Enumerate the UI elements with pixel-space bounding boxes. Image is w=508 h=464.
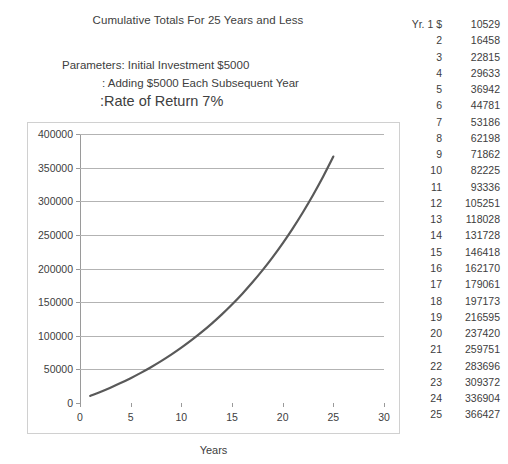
chart-frame: 0500001000001500002000002500003000003500… [27,122,400,434]
table-cell-total: 29633 [444,67,500,79]
table-cell-year: 12 [400,197,444,209]
table-cell-total: 197173 [444,295,500,307]
table-cell-total: 22815 [444,51,500,63]
y-axis-tick-label: 0 [67,397,73,409]
table-cell-year: 15 [400,246,444,258]
table-row: 753186 [400,116,504,132]
table-row: 1193336 [400,181,504,197]
table-row: 20237420 [400,327,504,343]
table-row: 536942 [400,83,504,99]
parameter-line-rate-of-return: :Rate of Return 7% [100,93,223,109]
table-cell-total: 179061 [444,278,500,290]
table-cell-year: 7 [400,116,444,128]
table-cell-year: 18 [400,295,444,307]
table-row: 21259751 [400,343,504,359]
table-row: 22283696 [400,360,504,376]
table-row: 13118028 [400,213,504,229]
table-cell-year: 4 [400,67,444,79]
x-axis-tick-label: 0 [77,411,83,423]
table-row: 19216595 [400,311,504,327]
table-cell-total: 366427 [444,408,500,420]
table-cell-total: 71862 [444,148,500,160]
x-axis-tick-label: 15 [226,411,238,423]
table-cell-year: 20 [400,327,444,339]
parameter-line-initial-investment: Parameters: Initial Investment $5000 [62,59,249,71]
table-cell-total: 10529 [444,18,500,30]
table-cell-year: 6 [400,99,444,111]
x-axis-tick-label: 10 [175,411,187,423]
table-cell-total: 309372 [444,376,500,388]
table-row: 16162170 [400,262,504,278]
table-row: 15146418 [400,246,504,262]
parameter-line-annual-addition: : Adding $5000 Each Subsequent Year [102,77,299,89]
table-row: 971862 [400,148,504,164]
table-cell-total: 146418 [444,246,500,258]
header-text-block: Cumulative Totals For 25 Years and Less … [0,0,396,118]
table-cell-year: 21 [400,343,444,355]
table-cell-total: 216595 [444,311,500,323]
table-cell-total: 336904 [444,392,500,404]
table-row: 12105251 [400,197,504,213]
y-axis-tick-label: 150000 [38,296,73,308]
table-cell-year: 9 [400,148,444,160]
table-row: 322815 [400,51,504,67]
x-axis-tick-label: 20 [277,411,289,423]
table-cell-total: 259751 [444,343,500,355]
table-cell-year: 17 [400,278,444,290]
x-axis-tick [283,403,284,407]
table-cell-total: 105251 [444,197,500,209]
table-row: 17179061 [400,278,504,294]
table-cell-year: 19 [400,311,444,323]
table-row: 862198 [400,132,504,148]
y-axis-tick-label: 200000 [38,263,73,275]
table-cell-year: 16 [400,262,444,274]
x-axis-tick [333,403,334,407]
table-cell-year: 5 [400,83,444,95]
table-row: 25366427 [400,408,504,424]
table-cell-total: 118028 [444,213,500,225]
table-cell-total: 162170 [444,262,500,274]
x-axis-tick-label: 25 [327,411,339,423]
yearly-totals-table: Yr. 1 $105292164583228154296335369426447… [400,18,504,425]
table-cell-year: 14 [400,229,444,241]
table-row: 23309372 [400,376,504,392]
table-cell-year: 25 [400,408,444,420]
table-cell-year: 8 [400,132,444,144]
table-cell-total: 82225 [444,164,500,176]
table-row: 24336904 [400,392,504,408]
table-cell-total: 36942 [444,83,500,95]
table-cell-total: 16458 [444,34,500,46]
chart-plot-area: 0500001000001500002000002500003000003500… [80,134,384,403]
table-cell-year: 24 [400,392,444,404]
y-axis-tick-label: 100000 [38,330,73,342]
y-axis-tick-label: 300000 [38,195,73,207]
x-axis-tick [181,403,182,407]
table-row: 18197173 [400,295,504,311]
table-cell-year: 3 [400,51,444,63]
table-cell-year: 23 [400,376,444,388]
y-axis-tick-label: 350000 [38,162,73,174]
table-row: Yr. 1 $10529 [400,18,504,34]
table-cell-year: 10 [400,164,444,176]
table-row: 1082225 [400,164,504,180]
x-axis-tick [232,403,233,407]
page-title: Cumulative Totals For 25 Years and Less [0,14,396,26]
table-cell-year: 11 [400,181,444,193]
x-axis-tick-label: 30 [378,411,390,423]
table-row: 429633 [400,67,504,83]
table-row: 644781 [400,99,504,115]
y-axis-tick-label: 50000 [44,363,73,375]
x-axis-tick [80,403,81,407]
table-cell-year: Yr. 1 $ [400,18,444,30]
table-cell-total: 62198 [444,132,500,144]
table-cell-year: 2 [400,34,444,46]
table-cell-year: 22 [400,360,444,372]
table-cell-total: 283696 [444,360,500,372]
cumulative-totals-line-series [80,134,384,403]
x-axis-tick-label: 5 [128,411,134,423]
table-row: 14131728 [400,229,504,245]
table-cell-total: 131728 [444,229,500,241]
y-axis-tick-label: 400000 [38,128,73,140]
y-axis-tick-label: 250000 [38,229,73,241]
x-axis-tick [131,403,132,407]
